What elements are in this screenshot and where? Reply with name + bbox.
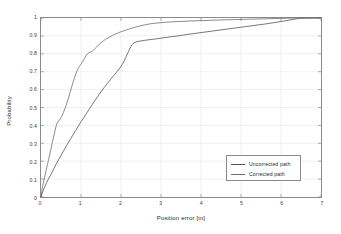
legend-box: Uncorrected path Corrected path: [226, 155, 301, 181]
legend-item-uncorrected-path: Uncorrected path: [231, 159, 300, 169]
figure-canvas: 00.10.20.30.40.50.60.70.80.91 Probabilit…: [0, 0, 341, 234]
legend-line-swatch-icon: [231, 174, 245, 175]
x-tick-label: 0: [39, 200, 42, 206]
x-tick-label: 4: [200, 200, 203, 206]
y-tick-label: 0.5: [29, 105, 37, 111]
x-tick-label: 2: [119, 200, 122, 206]
y-axis-tick-labels: 00.10.20.30.40.50.60.70.80.91: [22, 0, 37, 234]
y-axis-title: Probability: [6, 81, 12, 141]
x-tick-label: 5: [240, 200, 243, 206]
y-tick-label: 0: [34, 195, 37, 201]
legend-item-corrected-path: Corrected path: [231, 169, 300, 179]
x-tick-label: 7: [321, 200, 324, 206]
x-tick-label: 6: [280, 200, 283, 206]
y-tick-label: 0.7: [29, 68, 37, 74]
y-tick-label: 0.8: [29, 50, 37, 56]
x-tick-label: 3: [159, 200, 162, 206]
y-tick-label: 0.6: [29, 86, 37, 92]
x-tick-label: 1: [79, 200, 82, 206]
y-tick-label: 0.4: [29, 123, 37, 129]
legend-line-swatch-icon: [231, 164, 245, 165]
y-tick-label: 1: [34, 14, 37, 20]
y-tick-label: 0.2: [29, 159, 37, 165]
x-axis-title: Position error [m]: [40, 215, 322, 221]
legend-label: Corrected path: [249, 171, 285, 177]
y-tick-label: 0.3: [29, 141, 37, 147]
y-tick-label: 0.9: [29, 32, 37, 38]
legend-label: Uncorrected path: [249, 161, 290, 167]
y-tick-label: 0.1: [29, 177, 37, 183]
